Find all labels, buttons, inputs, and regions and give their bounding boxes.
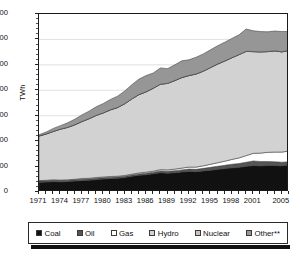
x-tick-mark xyxy=(145,191,146,194)
legend-item-other[interactable]: Other** xyxy=(246,229,280,238)
x-tick-mark xyxy=(209,191,210,194)
x-tick-mark xyxy=(38,191,39,194)
legend-item-gas[interactable]: Gas xyxy=(111,229,134,238)
x-tick-mark xyxy=(231,191,232,194)
y-tick-label: 700 xyxy=(0,9,8,17)
x-tick-mark xyxy=(117,191,118,194)
legend-label: Nuclear xyxy=(203,229,230,238)
legend-item-coal[interactable]: Coal xyxy=(36,229,61,238)
x-tick-mark xyxy=(224,191,225,194)
legend-swatch-icon xyxy=(77,230,83,236)
x-tick-mark xyxy=(102,191,103,194)
legend-label: Hydro xyxy=(158,229,179,238)
legend-swatch-icon xyxy=(246,230,252,236)
legend-swatch-icon xyxy=(36,230,42,236)
plot-frame xyxy=(38,13,288,191)
y-tick-label: 500 xyxy=(0,60,8,68)
x-tick-label: 2005 xyxy=(266,196,296,205)
x-tick-mark xyxy=(188,191,189,194)
y-tick-label: 300 xyxy=(0,111,8,119)
legend-label: Gas xyxy=(119,229,133,238)
x-tick-mark xyxy=(88,191,89,194)
legend-label: Coal xyxy=(45,229,61,238)
legend-swatch-icon xyxy=(149,230,155,236)
x-tick-mark xyxy=(131,191,132,194)
chart-area: TWh 0100200300400500600700 1971197419771… xyxy=(0,0,300,215)
legend-label: Other** xyxy=(254,229,280,238)
legend-item-nuclear[interactable]: Nuclear xyxy=(195,229,230,238)
x-tick-mark xyxy=(74,191,75,194)
x-tick-mark xyxy=(81,191,82,194)
x-tick-mark xyxy=(152,191,153,194)
chart-screenshot: TWh 0100200300400500600700 1971197419771… xyxy=(0,0,300,257)
x-tick-mark xyxy=(202,191,203,194)
y-tick-label: 600 xyxy=(0,34,8,42)
legend-label: Oil xyxy=(85,229,95,238)
x-tick-mark xyxy=(274,191,275,194)
chart-legend: CoalOilGasHydroNuclearOther** xyxy=(28,222,288,244)
x-tick-mark xyxy=(95,191,96,194)
legend-item-oil[interactable]: Oil xyxy=(77,229,95,238)
y-tick-label: 200 xyxy=(0,136,8,144)
x-tick-mark xyxy=(281,191,282,194)
x-tick-mark xyxy=(45,191,46,194)
legend-item-hydro[interactable]: Hydro xyxy=(149,229,178,238)
x-tick-mark xyxy=(238,191,239,194)
stacked-area-plot xyxy=(39,14,288,191)
y-tick-label: 400 xyxy=(0,85,8,93)
x-tick-mark xyxy=(259,191,260,194)
legend-swatch-icon xyxy=(111,230,117,236)
x-tick-mark xyxy=(245,191,246,194)
x-tick-label: 2001 xyxy=(237,196,267,205)
y-tick-label: 100 xyxy=(0,162,8,170)
x-tick-mark xyxy=(267,191,268,194)
y-axis-title: TWh xyxy=(18,63,27,123)
x-tick-mark xyxy=(138,191,139,194)
x-tick-mark xyxy=(167,191,168,194)
x-tick-mark xyxy=(195,191,196,194)
x-tick-mark xyxy=(217,191,218,194)
x-tick-mark xyxy=(59,191,60,194)
x-tick-mark xyxy=(109,191,110,194)
x-tick-mark xyxy=(124,191,125,194)
x-tick-mark xyxy=(67,191,68,194)
y-tick-label: 0 xyxy=(0,187,8,195)
x-tick-mark xyxy=(252,191,253,194)
legend-shadow xyxy=(31,245,290,249)
x-tick-mark xyxy=(159,191,160,194)
legend-swatch-icon xyxy=(195,230,201,236)
x-tick-mark xyxy=(52,191,53,194)
x-tick-mark xyxy=(288,191,289,194)
x-tick-mark xyxy=(174,191,175,194)
x-tick-mark xyxy=(181,191,182,194)
